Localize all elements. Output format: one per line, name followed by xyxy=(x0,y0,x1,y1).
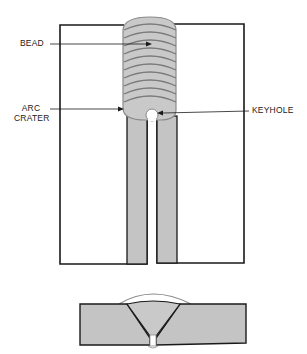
keyhole-label: KEYHOLE xyxy=(252,105,294,115)
weld-diagram xyxy=(0,0,307,354)
left-edge-bevel xyxy=(127,116,147,264)
arc-crater-label-line1: ARC xyxy=(14,103,48,113)
bead-label: BEAD xyxy=(20,38,44,48)
arc-crater-label: ARC CRATER xyxy=(14,103,48,123)
arc-crater-label-line2: CRATER xyxy=(14,113,48,123)
top-view xyxy=(50,17,249,264)
cross-section-view xyxy=(80,294,246,348)
right-edge-bevel xyxy=(157,116,177,263)
root-penetration xyxy=(150,335,156,346)
